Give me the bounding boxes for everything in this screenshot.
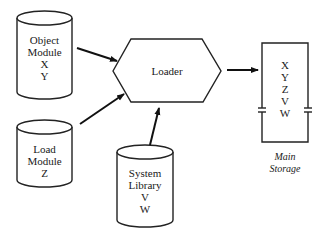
object-module-label-1: Object bbox=[30, 34, 59, 46]
storage-item-y: Y bbox=[281, 71, 289, 83]
system-library-label-1: System bbox=[129, 167, 162, 179]
main-storage-caption-2: Storage bbox=[269, 163, 301, 174]
storage-item-x: X bbox=[281, 59, 289, 71]
storage-item-v: V bbox=[281, 95, 289, 107]
arrow-object-module-to-loader bbox=[77, 48, 117, 61]
load-module-item-z: Z bbox=[41, 167, 48, 179]
system-library-item-w: W bbox=[140, 203, 151, 215]
object-module-item-y: Y bbox=[41, 70, 49, 82]
object-module-cylinder: Object Module X Y bbox=[17, 11, 72, 99]
system-library-cylinder: System Library V W bbox=[117, 145, 173, 227]
loader-hexagon: Loader bbox=[113, 39, 221, 102]
storage-item-z: Z bbox=[282, 83, 289, 95]
loader-label: Loader bbox=[151, 65, 182, 77]
arrow-load-module-to-loader bbox=[80, 94, 124, 124]
load-module-label-1: Load bbox=[33, 143, 56, 155]
object-module-item-x: X bbox=[41, 58, 49, 70]
load-module-cylinder: Load Module Z bbox=[17, 120, 72, 187]
load-module-label-2: Module bbox=[27, 155, 61, 167]
system-library-label-2: Library bbox=[129, 179, 162, 191]
system-library-item-v: V bbox=[141, 191, 149, 203]
storage-item-w: W bbox=[280, 107, 291, 119]
object-module-label-2: Module bbox=[27, 46, 61, 58]
main-storage-caption-1: Main bbox=[273, 151, 295, 162]
loader-diagram: Object Module X Y Load Module Z System L… bbox=[0, 0, 323, 237]
arrow-system-library-to-loader bbox=[150, 108, 159, 145]
main-storage-box: X Y Z V W Main Storage bbox=[258, 43, 312, 174]
